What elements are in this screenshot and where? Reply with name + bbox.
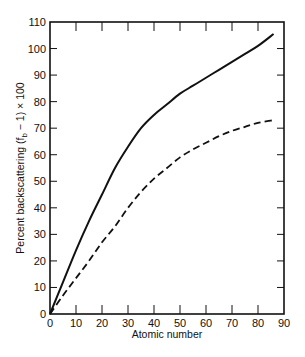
x-tick-label: 80 — [252, 317, 264, 329]
y-tick-label: 60 — [34, 149, 46, 161]
y-tick-label: 70 — [34, 122, 46, 134]
chart: 0102030405060708090100110 01020304050607… — [0, 0, 305, 357]
series-line-solid — [50, 34, 274, 314]
y-tick-label: 80 — [34, 96, 46, 108]
y-tick-label: 40 — [34, 202, 46, 214]
x-tick-label: 70 — [226, 317, 238, 329]
x-axis-ticks: 0102030405060708090 — [47, 22, 290, 329]
y-axis-title: Percent backscattering (fb − 1) × 100 — [14, 82, 29, 254]
y-axis-title-pre: Percent backscattering (f — [14, 137, 26, 253]
y-axis-title-post: − 1) × 100 — [14, 82, 26, 133]
y-tick-label: 30 — [34, 228, 46, 240]
x-axis-title: Atomic number — [132, 328, 203, 340]
y-tick-label: 10 — [34, 281, 46, 293]
y-tick-label: 50 — [34, 175, 46, 187]
y-tick-label: 20 — [34, 255, 46, 267]
y-tick-label: 110 — [28, 16, 46, 28]
y-tick-label: 90 — [34, 69, 46, 81]
x-tick-label: 20 — [96, 317, 108, 329]
series-line-dashed — [50, 120, 274, 314]
y-tick-label: 0 — [40, 308, 46, 320]
x-tick-label: 0 — [47, 317, 53, 329]
y-tick-label: 100 — [28, 43, 46, 55]
data-series — [50, 34, 274, 314]
x-tick-label: 90 — [278, 317, 290, 329]
x-tick-label: 10 — [70, 317, 82, 329]
